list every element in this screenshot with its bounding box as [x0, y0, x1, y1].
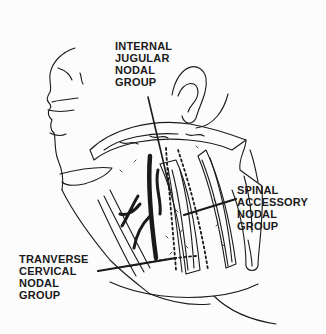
label-line: GROUP [19, 289, 89, 301]
label-spinal-accessory-nodal-group: SPINAL ACCESSORY NODAL GROUP [237, 184, 308, 232]
label-line: NODAL [115, 64, 172, 76]
clavicle-outline [110, 282, 258, 297]
label-line: NODAL [19, 277, 89, 289]
internal-jugular-vein [149, 156, 156, 258]
label-line: SPINAL [237, 184, 308, 196]
label-transverse-cervical-nodal-group: TRANVERSE CERVICAL NODAL GROUP [19, 253, 89, 301]
label-line: TRANVERSE [19, 253, 89, 265]
label-line: CERVICAL [19, 265, 89, 277]
label-line: NODAL [237, 208, 308, 220]
diagram-canvas: INTERNAL JUGULAR NODAL GROUP SPINAL ACCE… [0, 0, 326, 334]
label-line: JUGULAR [115, 52, 172, 64]
label-line: GROUP [237, 220, 308, 232]
leader-spinal-accessory [184, 199, 236, 215]
ear-outline [172, 67, 206, 123]
skin-flap-upper [90, 122, 246, 160]
label-line: INTERNAL [115, 40, 172, 52]
label-line: ACCESSORY [237, 196, 308, 208]
label-internal-jugular-nodal-group: INTERNAL JUGULAR NODAL GROUP [115, 40, 172, 88]
label-line: GROUP [115, 76, 172, 88]
